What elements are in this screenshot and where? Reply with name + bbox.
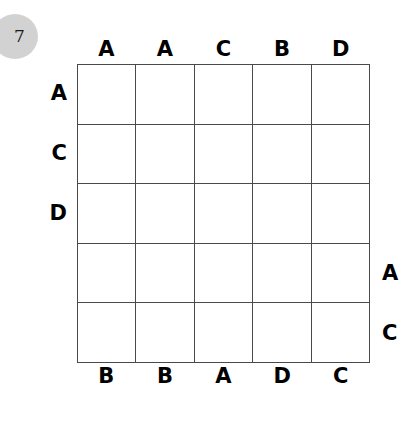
clue-left-3: D <box>37 184 71 244</box>
top-clues: A A C B D <box>77 26 370 60</box>
clue-bottom-4: D <box>253 366 312 400</box>
grid-cell[interactable] <box>78 303 136 363</box>
grid-cell[interactable] <box>253 125 311 185</box>
grid-cell[interactable] <box>195 65 253 125</box>
grid-cell[interactable] <box>253 244 311 304</box>
grid-cell[interactable] <box>136 125 194 185</box>
grid-cell[interactable] <box>253 65 311 125</box>
clue-bottom-1: B <box>77 366 136 400</box>
clue-right-2 <box>376 124 409 184</box>
clue-right-4: A <box>376 243 409 303</box>
clue-top-2: A <box>136 26 195 60</box>
puzzle-grid <box>77 64 370 363</box>
bottom-clues: B B A D C <box>77 366 370 400</box>
clue-right-3 <box>376 184 409 244</box>
grid-cell[interactable] <box>136 244 194 304</box>
clue-top-5: D <box>311 26 370 60</box>
clue-bottom-2: B <box>136 366 195 400</box>
clue-bottom-3: A <box>194 366 253 400</box>
grid-cell[interactable] <box>253 184 311 244</box>
grid-cell[interactable] <box>312 65 370 125</box>
clue-left-4 <box>37 243 71 303</box>
grid-cell[interactable] <box>136 65 194 125</box>
clue-top-1: A <box>77 26 136 60</box>
grid-cell[interactable] <box>195 303 253 363</box>
clue-right-1 <box>376 64 409 124</box>
right-clues: A C <box>376 64 409 363</box>
grid-cell[interactable] <box>78 65 136 125</box>
clue-left-2: C <box>37 124 71 184</box>
grid-cell[interactable] <box>312 125 370 185</box>
puzzle-number: 7 <box>5 28 25 45</box>
grid-cell[interactable] <box>312 244 370 304</box>
grid-cell[interactable] <box>78 184 136 244</box>
grid-cell[interactable] <box>136 303 194 363</box>
grid-cell[interactable] <box>195 125 253 185</box>
clue-left-1: A <box>37 64 71 124</box>
clue-top-3: C <box>194 26 253 60</box>
clue-top-4: B <box>253 26 312 60</box>
grid-cell[interactable] <box>195 244 253 304</box>
grid-cell[interactable] <box>253 303 311 363</box>
left-clues: A C D <box>37 64 71 363</box>
grid-cell[interactable] <box>195 184 253 244</box>
clue-left-5 <box>37 303 71 363</box>
grid-cell[interactable] <box>78 125 136 185</box>
grid-cell[interactable] <box>312 303 370 363</box>
grid-cell[interactable] <box>136 184 194 244</box>
puzzle-container: A A C B D A C D <box>77 64 370 363</box>
grid-cell[interactable] <box>78 244 136 304</box>
clue-right-5: C <box>376 303 409 363</box>
grid-cell[interactable] <box>312 184 370 244</box>
puzzle-number-badge: 7 <box>0 14 38 59</box>
clue-bottom-5: C <box>311 366 370 400</box>
